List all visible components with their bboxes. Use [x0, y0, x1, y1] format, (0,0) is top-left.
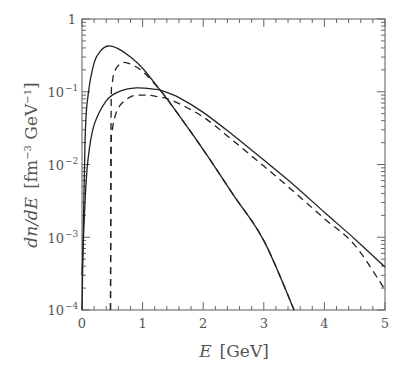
curve-dashed-broad: [111, 95, 386, 310]
curve-dashed-narrow: [111, 62, 295, 310]
x-tick-label-1: 1: [138, 316, 146, 331]
y-tick-exp-1e-1: −1: [65, 83, 78, 93]
y-tick-label-1e-1: 10: [47, 85, 64, 100]
y-tick-label-1e-4: 10: [47, 303, 64, 318]
curves: [82, 46, 385, 310]
y-tick-label-1: 1: [68, 12, 76, 27]
y-tick-label-1e-3: 10: [47, 231, 64, 246]
x-tick-label-2: 2: [199, 316, 207, 331]
curve-solid-narrow: [82, 46, 294, 310]
x-tick-label-0: 0: [78, 316, 86, 331]
y-tick-exp-1e-2: −2: [65, 156, 78, 166]
x-axis-title: E[GeV]: [198, 341, 269, 361]
y-tick-label-1e-2: 10: [47, 158, 64, 173]
chart-plot: 0 1 2 3 4 5 1 10 −1 10 −2 10 −3 10 −4 E[…: [0, 0, 406, 371]
x-tick-label-5: 5: [381, 316, 389, 331]
x-tick-label-4: 4: [320, 316, 328, 331]
y-tick-exp-1e-3: −3: [65, 229, 79, 239]
curve-solid-broad: [82, 88, 385, 275]
y-axis-title: dn/dE[fm−3 GeV−1]: [21, 82, 41, 247]
y-tick-exp-1e-4: −4: [65, 301, 79, 311]
x-tick-label-3: 3: [260, 316, 268, 331]
